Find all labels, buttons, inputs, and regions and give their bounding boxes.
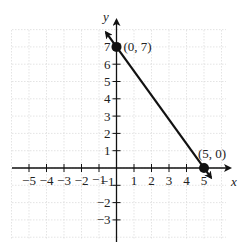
- x-tick-label: −2: [75, 173, 89, 188]
- data-point: [199, 163, 209, 173]
- y-tick-label: 6: [104, 57, 111, 72]
- x-tick-label: −3: [57, 173, 71, 188]
- y-tick-label: −1: [101, 174, 115, 189]
- x-tick-label: −4: [40, 173, 54, 188]
- data-line: [106, 32, 211, 177]
- x-tick-label: 5: [201, 173, 208, 188]
- y-tick-label: 7: [104, 39, 111, 54]
- y-tick-label: 1: [104, 143, 111, 158]
- point-label: (5, 0): [198, 146, 226, 161]
- y-tick-label: 2: [104, 126, 111, 141]
- y-tick-label: 5: [104, 74, 111, 89]
- grid-lines: [12, 30, 227, 240]
- y-tick-label: −2: [97, 195, 111, 210]
- x-tick-label: 1: [131, 173, 138, 188]
- point-label: (0, 7): [124, 39, 152, 54]
- y-tick-label: 4: [104, 91, 111, 106]
- y-tick-label: −3: [97, 212, 111, 227]
- y-tick-label: 3: [104, 109, 111, 124]
- x-axis-label: x: [230, 174, 237, 189]
- x-tick-label: −5: [22, 173, 36, 188]
- coordinate-plane: −5−4−3−2−112345−3−2−11234567 (0, 7)(5, 0…: [0, 0, 238, 248]
- x-tick-label: 4: [183, 173, 190, 188]
- y-axis-label: y: [101, 9, 109, 24]
- data-point: [112, 42, 122, 52]
- x-tick-label: 2: [148, 173, 155, 188]
- x-tick-label: 3: [166, 173, 173, 188]
